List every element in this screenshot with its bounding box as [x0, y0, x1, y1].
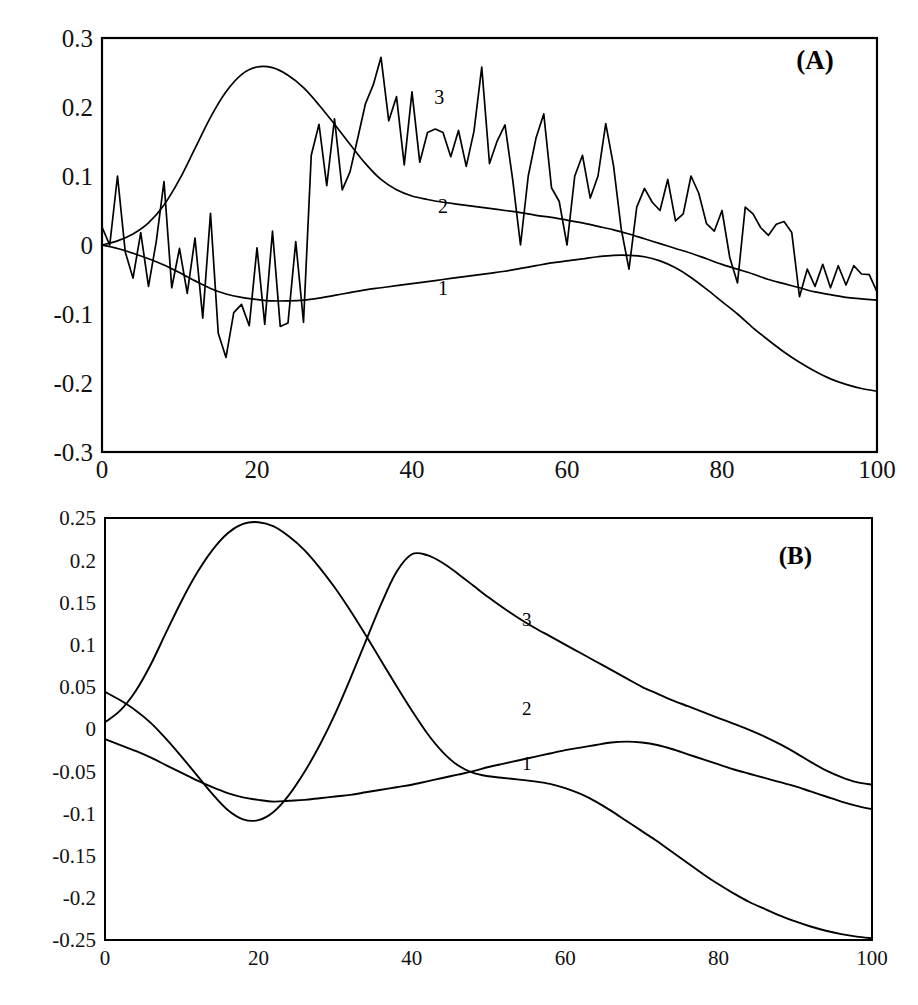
x-tick-label: 0: [96, 456, 109, 483]
y-tick-label: -0.3: [53, 439, 93, 466]
panel-label: (A): [796, 45, 833, 75]
curve-label-2: 2: [438, 195, 448, 217]
x-tick-label: 40: [401, 946, 422, 970]
y-tick-label: 0.15: [59, 591, 96, 615]
y-tick-label: -0.1: [63, 802, 96, 826]
y-tick-label: -0.1: [53, 301, 93, 328]
y-tick-label: 0.2: [62, 94, 93, 121]
plot-frame: [105, 518, 872, 940]
y-tick-label: -0.2: [53, 370, 93, 397]
x-tick-label: 80: [708, 946, 729, 970]
x-tick-label: 0: [100, 946, 111, 970]
figure-container: -0.3-0.2-0.100.10.20.3020406080100(A)321…: [0, 0, 918, 1005]
curve-label-1: 1: [522, 753, 532, 774]
x-tick-label: 100: [856, 946, 888, 970]
y-tick-label: 0.05: [59, 675, 96, 699]
y-tick-label: 0.1: [70, 633, 96, 657]
panel-label: (B): [779, 542, 812, 570]
y-tick-label: 0.2: [70, 549, 96, 573]
series-line-2: [105, 553, 872, 821]
y-tick-label: -0.25: [52, 928, 96, 952]
curve-label-3: 3: [522, 609, 532, 630]
x-tick-label: 20: [248, 946, 269, 970]
series-line-1: [105, 739, 872, 809]
y-tick-label: -0.05: [52, 760, 96, 784]
series-line-1: [102, 245, 877, 391]
x-tick-label: 40: [400, 456, 425, 483]
y-tick-label: 0.3: [62, 25, 93, 52]
y-tick-label: 0: [86, 717, 97, 741]
x-tick-label: 80: [710, 456, 735, 483]
panel-a: -0.3-0.2-0.100.10.20.3020406080100(A)321: [0, 0, 918, 500]
y-tick-label: 0.1: [62, 163, 93, 190]
y-tick-label: 0: [81, 232, 94, 259]
panel-a-plot: -0.3-0.2-0.100.10.20.3020406080100(A)321: [0, 0, 918, 500]
curve-label-3: 3: [434, 86, 444, 108]
series-line-2: [102, 66, 877, 300]
x-tick-label: 60: [555, 946, 576, 970]
curve-label-1: 1: [438, 277, 448, 299]
panel-b: -0.25-0.2-0.15-0.1-0.0500.050.10.150.20.…: [0, 500, 918, 1005]
series-line-3: [105, 522, 872, 938]
panel-b-plot: -0.25-0.2-0.15-0.1-0.0500.050.10.150.20.…: [0, 500, 918, 1005]
curve-label-2: 2: [522, 698, 532, 719]
y-tick-label: -0.15: [52, 844, 96, 868]
plot-frame: [102, 38, 877, 452]
y-tick-label: 0.25: [59, 506, 96, 530]
x-tick-label: 100: [858, 456, 896, 483]
x-tick-label: 20: [245, 456, 270, 483]
x-tick-label: 60: [555, 456, 580, 483]
y-tick-label: -0.2: [63, 886, 96, 910]
